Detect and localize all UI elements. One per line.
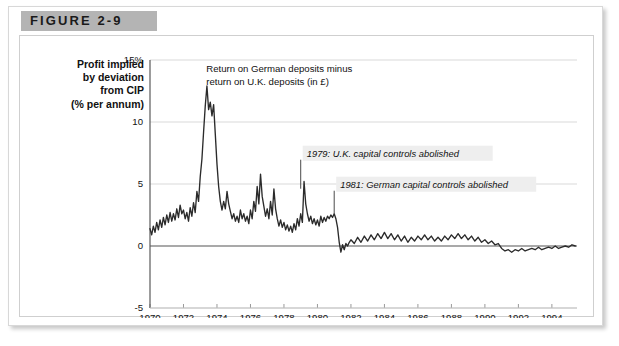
series-annotation-line: Return on German deposits minus xyxy=(206,63,352,74)
event-annotation-label: 1979: U.K. capital controls abolished xyxy=(307,148,460,159)
y-tick-label: 0 xyxy=(138,240,143,251)
y-tick-label: 15% xyxy=(124,54,144,65)
event-annotation-label: 1981: German capital controls abolished xyxy=(340,179,509,190)
x-tick-label: 1992 xyxy=(508,312,529,318)
figure-card: FIGURE 2-9 Profit implied by deviation f… xyxy=(8,6,603,326)
data-series-line xyxy=(150,86,575,252)
x-tick-label: 1982 xyxy=(340,312,361,318)
series-path xyxy=(150,86,575,252)
x-tick-label: 1972 xyxy=(173,312,194,318)
x-tick-label: 1986 xyxy=(407,312,428,318)
y-tick-label: 5 xyxy=(138,178,143,189)
chart-panel: Profit implied by deviation from CIP (% … xyxy=(19,35,594,317)
x-axis-ticks: 1970197219741976197819801982198419861988… xyxy=(139,304,563,318)
chart-annotations: Return on German deposits minusreturn on… xyxy=(206,63,536,213)
figure-number-tag: FIGURE 2-9 xyxy=(21,11,157,31)
line-chart: 15%1050-5 197019721974197619781980198219… xyxy=(20,36,595,318)
x-tick-label: 1994 xyxy=(541,312,563,318)
figure-header: FIGURE 2-9 xyxy=(9,7,602,33)
x-tick-label: 1980 xyxy=(307,312,328,318)
series-annotation-line: return on U.K. deposits (in £) xyxy=(206,76,329,87)
y-axis-ticks: 15%1050-5 xyxy=(124,54,144,313)
x-tick-label: 1970 xyxy=(139,312,160,318)
y-tick-label: 10 xyxy=(132,116,143,127)
x-tick-label: 1984 xyxy=(374,312,396,318)
x-tick-label: 1978 xyxy=(273,312,294,318)
x-tick-label: 1974 xyxy=(206,312,228,318)
x-tick-label: 1990 xyxy=(474,312,495,318)
x-tick-label: 1988 xyxy=(441,312,462,318)
x-tick-label: 1976 xyxy=(240,312,261,318)
